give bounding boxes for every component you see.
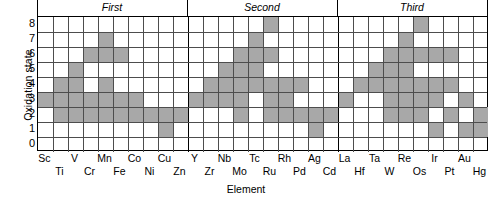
x-tick-Pt: Pt	[437, 165, 463, 177]
x-tick-Pd: Pd	[287, 165, 313, 177]
cell-W-4	[383, 77, 398, 92]
y-tick-4: 4	[20, 76, 35, 91]
x-tick-Ta: Ta	[362, 152, 388, 164]
y-tick-6: 6	[20, 46, 35, 61]
cell-Re-6	[398, 47, 413, 62]
cell-Zr-3	[203, 92, 218, 107]
cell-Os-2	[413, 107, 428, 122]
x-tick-Ir: Ir	[422, 152, 448, 164]
gridline-vertical	[68, 17, 69, 152]
x-tick-La: La	[332, 152, 358, 164]
cell-Pt-2	[443, 107, 458, 122]
x-tick-Co: Co	[122, 152, 148, 164]
gridline-vertical	[53, 17, 54, 152]
gridline-vertical	[263, 17, 264, 152]
gridline-vertical	[308, 17, 309, 152]
cell-Co-3	[128, 92, 143, 107]
y-tick-8: 8	[20, 16, 35, 31]
x-tick-Ti: Ti	[47, 165, 73, 177]
cell-Fe-3	[113, 92, 128, 107]
y-tick-7: 7	[20, 31, 35, 46]
cell-Zn-2	[173, 107, 188, 122]
x-tick-Mn: Mn	[92, 152, 118, 164]
cell-Au-3	[458, 92, 473, 107]
cell-Ti-4	[53, 77, 68, 92]
series-header-first: First	[37, 1, 187, 13]
gridline-vertical	[173, 17, 174, 152]
cell-W-6	[383, 47, 398, 62]
cell-Ru-8	[263, 17, 278, 32]
gridline-vertical	[143, 17, 144, 152]
cell-V-2	[68, 107, 83, 122]
cell-V-5	[68, 62, 83, 77]
cell-Tc-4	[248, 77, 263, 92]
plot-area	[37, 16, 488, 151]
gridline-horizontal	[38, 107, 487, 108]
cell-Mo-3	[233, 92, 248, 107]
cell-Pd-2	[293, 107, 308, 122]
cell-Hf-4	[353, 77, 368, 92]
gridline-vertical	[233, 17, 234, 152]
x-tick-W: W	[377, 165, 403, 177]
cell-Nb-5	[218, 62, 233, 77]
y-axis-tick-labels: 876543210	[20, 16, 35, 151]
cell-Hg-2	[473, 107, 488, 122]
x-tick-Sc: Sc	[32, 152, 58, 164]
cell-Mn-6	[98, 47, 113, 62]
series-header-third: Third	[337, 1, 487, 13]
cell-Re-2	[398, 107, 413, 122]
cell-Rh-2	[278, 107, 293, 122]
cell-Os-6	[413, 47, 428, 62]
gridline-horizontal	[38, 122, 487, 123]
cell-Re-5	[398, 62, 413, 77]
cell-Ta-5	[368, 62, 383, 77]
gridline-vertical	[158, 17, 159, 152]
cell-Ru-3	[263, 92, 278, 107]
gridline-vertical	[278, 17, 279, 152]
x-tick-Os: Os	[407, 165, 433, 177]
cell-Cr-3	[83, 92, 98, 107]
gridline-horizontal	[38, 32, 487, 33]
gridline-vertical	[458, 17, 459, 152]
series-divider	[337, 0, 338, 16]
gridline-vertical	[323, 17, 324, 152]
series-divider	[37, 0, 38, 16]
cell-Re-3	[398, 92, 413, 107]
cell-Mo-4	[233, 77, 248, 92]
cell-Rh-4	[278, 77, 293, 92]
cell-Ti-2	[53, 107, 68, 122]
cell-Os-4	[413, 77, 428, 92]
cell-Ir-6	[428, 47, 443, 62]
cell-La-3	[338, 92, 353, 107]
cell-Nb-3	[218, 92, 233, 107]
cell-Tc-5	[248, 62, 263, 77]
cell-Y-3	[188, 92, 203, 107]
cell-Tc-7	[248, 32, 263, 47]
x-tick-Ru: Ru	[257, 165, 283, 177]
cell-Fe-6	[113, 47, 128, 62]
cell-Pd-4	[293, 77, 308, 92]
cell-Tc-6	[248, 47, 263, 62]
cell-W-3	[383, 92, 398, 107]
cell-Zr-4	[203, 77, 218, 92]
cell-Cu-2	[158, 107, 173, 122]
cell-Re-4	[398, 77, 413, 92]
series-header-second: Second	[187, 1, 337, 13]
gridline-vertical	[98, 17, 99, 152]
cell-Ir-3	[428, 92, 443, 107]
cell-Ru-4	[263, 77, 278, 92]
cell-Ta-4	[368, 77, 383, 92]
x-tick-V: V	[62, 152, 88, 164]
series-header-row: FirstSecondThird	[37, 0, 488, 16]
y-tick-0: 0	[20, 136, 35, 151]
gridline-vertical	[383, 17, 384, 152]
oxidation-state-chart: Oxidation state 876543210 FirstSecondThi…	[0, 0, 492, 204]
cell-Ag-1	[308, 122, 323, 137]
x-tick-Hf: Hf	[347, 165, 373, 177]
x-tick-Tc: Tc	[242, 152, 268, 164]
gridline-horizontal	[38, 92, 487, 93]
cell-Mn-3	[98, 92, 113, 107]
gridline-vertical	[218, 17, 219, 152]
cell-Ru-6	[263, 47, 278, 62]
cell-W-2	[383, 107, 398, 122]
